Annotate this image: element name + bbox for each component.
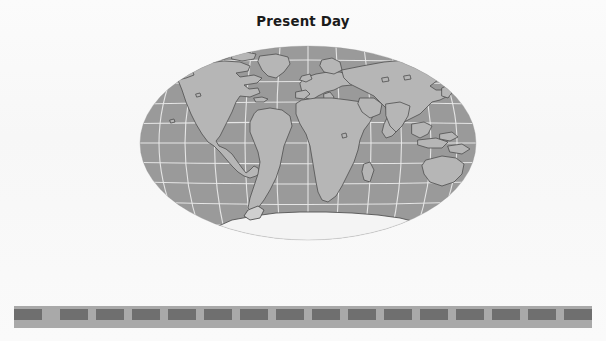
land-island-misc-1 [170, 119, 175, 123]
page-title: Present Day [24, 13, 582, 29]
paleogeography-figure: Present Day [0, 0, 606, 341]
land-island-misc-2 [196, 93, 201, 97]
land-new-zealand [468, 174, 478, 188]
timescale-blocks [14, 309, 592, 320]
world-map [136, 42, 480, 250]
land-island-misc-5 [404, 75, 411, 80]
timescale-bar [14, 306, 592, 328]
timescale-bar-svg [14, 306, 592, 328]
land-island-misc-4 [382, 77, 389, 82]
land-island-misc-3 [342, 133, 347, 138]
world-map-svg [136, 42, 480, 250]
